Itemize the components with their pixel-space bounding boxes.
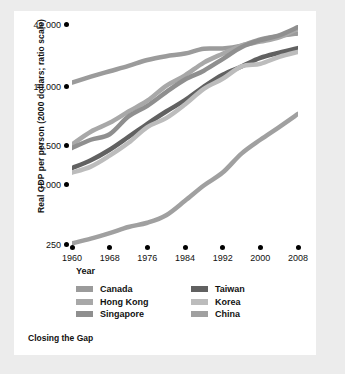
legend-swatch-icon	[76, 299, 93, 305]
series-line-china	[72, 114, 298, 243]
chart-title: Closing the Gap	[28, 333, 93, 343]
legend-swatch-icon	[76, 311, 93, 317]
x-tick-label: 1976	[137, 245, 157, 263]
legend-item-label: Canada	[100, 284, 133, 294]
y-tick-dot-icon	[64, 143, 69, 148]
legend-item-label: Singapore	[100, 309, 144, 319]
x-tick-dot-icon	[70, 245, 75, 250]
legend-item-hong-kong[interactable]: Hong Kong	[76, 296, 191, 309]
series-line-taiwan	[72, 48, 298, 168]
y-tick-dot-icon	[64, 84, 69, 89]
x-tick-dot-icon	[258, 245, 263, 250]
legend-item-canada[interactable]: Canada	[76, 283, 191, 296]
legend-swatch-icon	[191, 299, 208, 305]
legend-swatch-icon	[76, 286, 93, 292]
chart-legend: CanadaHong KongSingaporeTaiwanKoreaChina	[76, 283, 306, 321]
legend-item-taiwan[interactable]: Taiwan	[191, 283, 306, 296]
x-axis-title: Year	[76, 266, 95, 276]
x-tick-label: 2008	[288, 245, 308, 263]
legend-item-label: China	[215, 309, 240, 319]
y-tick-dot-icon	[64, 22, 69, 27]
legend-column-1: CanadaHong KongSingapore	[76, 283, 191, 321]
series-line-singapore	[72, 27, 298, 148]
x-tick-label: 2000	[250, 245, 270, 263]
x-tick-label: 1992	[213, 245, 233, 263]
series-line-hong-kong	[72, 29, 298, 145]
plot-area: 2501,0002,50010,00042,000 19601968197619…	[72, 25, 298, 245]
legend-swatch-icon	[191, 311, 208, 317]
series-lines	[72, 25, 298, 245]
legend-swatch-icon	[191, 286, 208, 292]
y-tick-dot-icon	[64, 182, 69, 187]
legend-item-singapore[interactable]: Singapore	[76, 308, 191, 321]
legend-item-china[interactable]: China	[191, 308, 306, 321]
legend-item-korea[interactable]: Korea	[191, 296, 306, 309]
x-tick-dot-icon	[183, 245, 188, 250]
x-tick-label: 1960	[62, 245, 82, 263]
x-tick-dot-icon	[107, 245, 112, 250]
legend-item-label: Korea	[215, 297, 241, 307]
y-tick-label: 1,000	[38, 180, 72, 190]
legend-column-2: TaiwanKoreaChina	[191, 283, 306, 321]
x-tick-dot-icon	[296, 245, 301, 250]
x-tick-label: 1968	[100, 245, 120, 263]
y-tick-label: 10,000	[33, 82, 72, 92]
y-tick-label: 42,000	[33, 20, 72, 30]
x-tick-dot-icon	[220, 245, 225, 250]
chart-card: Real GDP per person (2000 dollars; ratio…	[14, 11, 316, 355]
x-tick-dot-icon	[145, 245, 150, 250]
legend-item-label: Hong Kong	[100, 297, 149, 307]
legend-item-label: Taiwan	[215, 284, 245, 294]
x-tick-label: 1984	[175, 245, 195, 263]
y-tick-label: 2,500	[38, 141, 72, 151]
